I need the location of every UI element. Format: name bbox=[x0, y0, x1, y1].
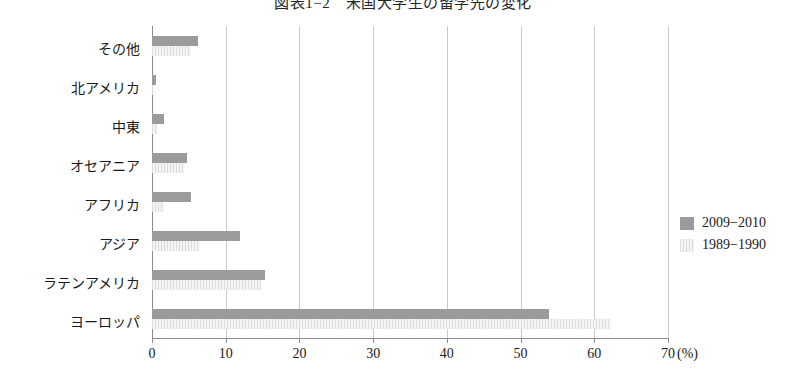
bar-group: オセアニア bbox=[152, 153, 668, 173]
x-tick-70 bbox=[668, 338, 669, 343]
legend-item-past: 1989−1990 bbox=[680, 234, 766, 256]
bar-group: その他 bbox=[152, 36, 668, 56]
legend-item-recent: 2009−2010 bbox=[680, 212, 766, 234]
chart-container: 図表1−2 米国大学生の留学先の変化 010203040506070(%) その… bbox=[0, 0, 806, 378]
bar-recent bbox=[152, 75, 156, 85]
gridline-50 bbox=[521, 26, 522, 338]
category-label: アジア bbox=[20, 233, 140, 253]
x-tick-20 bbox=[299, 338, 300, 343]
category-label: ラテンアメリカ bbox=[20, 272, 140, 292]
bar-recent bbox=[152, 231, 240, 241]
legend-swatch-past-icon bbox=[680, 239, 694, 252]
y-axis-line bbox=[152, 26, 153, 338]
bar-recent bbox=[152, 36, 198, 46]
gridline-20 bbox=[299, 26, 300, 338]
legend-swatch-recent-icon bbox=[680, 217, 694, 230]
bar-group: 北アメリカ bbox=[152, 75, 668, 95]
x-tick-label-50: 50 bbox=[514, 346, 528, 362]
bar-recent bbox=[152, 153, 187, 163]
x-tick-10 bbox=[226, 338, 227, 343]
bar-recent bbox=[152, 309, 549, 319]
legend-label-past: 1989−1990 bbox=[702, 237, 766, 253]
bar-past bbox=[152, 241, 200, 251]
x-tick-label-30: 30 bbox=[366, 346, 380, 362]
x-tick-label-70: 70 bbox=[661, 346, 675, 362]
legend-label-recent: 2009−2010 bbox=[702, 215, 766, 231]
category-label: オセアニア bbox=[20, 155, 140, 175]
category-label: アフリカ bbox=[20, 194, 140, 214]
gridline-10 bbox=[226, 26, 227, 338]
plot-area: 010203040506070(%) その他北アメリカ中東オセアニアアフリカアジ… bbox=[152, 26, 668, 338]
bar-past bbox=[152, 85, 154, 95]
x-tick-label-40: 40 bbox=[440, 346, 454, 362]
category-label: 中東 bbox=[20, 116, 140, 136]
x-tick-label-20: 20 bbox=[292, 346, 306, 362]
bar-past bbox=[152, 163, 184, 173]
x-tick-60 bbox=[594, 338, 595, 343]
bar-past bbox=[152, 280, 261, 290]
x-tick-50 bbox=[521, 338, 522, 343]
x-tick-label-10: 10 bbox=[219, 346, 233, 362]
category-label: その他 bbox=[20, 38, 140, 58]
chart-title: 図表1−2 米国大学生の留学先の変化 bbox=[0, 0, 806, 12]
bar-group: ラテンアメリカ bbox=[152, 270, 668, 290]
bar-group: アジア bbox=[152, 231, 668, 251]
gridline-30 bbox=[373, 26, 374, 338]
category-label: 北アメリカ bbox=[20, 77, 140, 97]
bar-group: ヨーロッパ bbox=[152, 309, 668, 329]
x-axis-unit-label: (%) bbox=[677, 346, 698, 362]
x-tick-label-60: 60 bbox=[587, 346, 601, 362]
bar-past bbox=[152, 202, 164, 212]
gridline-70 bbox=[668, 26, 669, 338]
x-tick-40 bbox=[447, 338, 448, 343]
category-label: ヨーロッパ bbox=[20, 311, 140, 331]
bar-group: アフリカ bbox=[152, 192, 668, 212]
x-axis-line bbox=[152, 338, 669, 339]
bar-past bbox=[152, 124, 158, 134]
bar-group: 中東 bbox=[152, 114, 668, 134]
bar-past bbox=[152, 46, 191, 56]
bar-recent bbox=[152, 192, 191, 202]
gridline-60 bbox=[594, 26, 595, 338]
bar-recent bbox=[152, 114, 164, 124]
bar-recent bbox=[152, 270, 265, 280]
bar-past bbox=[152, 319, 611, 329]
gridline-40 bbox=[447, 26, 448, 338]
x-tick-label-0: 0 bbox=[149, 346, 156, 362]
x-tick-0 bbox=[152, 338, 153, 343]
x-tick-30 bbox=[373, 338, 374, 343]
chart-legend: 2009−2010 1989−1990 bbox=[680, 212, 766, 256]
